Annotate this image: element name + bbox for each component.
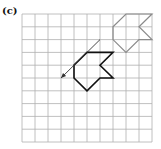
translated-shape	[74, 52, 113, 90]
arrow-shaft	[61, 40, 100, 78]
translation-diagram	[0, 0, 161, 149]
grid	[22, 14, 152, 142]
original-shape	[113, 14, 152, 52]
translation-arrow	[61, 40, 100, 78]
